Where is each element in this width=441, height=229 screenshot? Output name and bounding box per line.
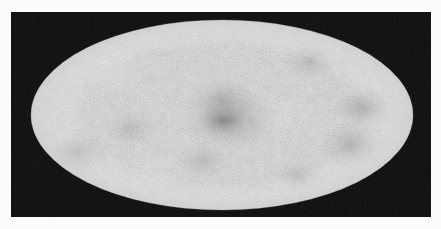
cmb-allsky-figure: Cosmic Microwave Background all-sky temp… — [0, 0, 441, 229]
sky-map — [31, 20, 413, 210]
allsky-map-svg: Cosmic Microwave Background all-sky temp… — [0, 0, 441, 229]
limb-shading — [31, 20, 413, 210]
